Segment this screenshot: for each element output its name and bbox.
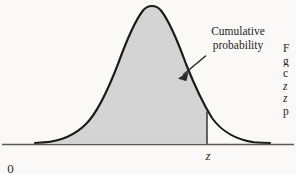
margin-caption-line-5: z bbox=[283, 92, 296, 105]
margin-caption-line-3: c bbox=[283, 67, 296, 80]
axis-tick-label-zero: 0 bbox=[0, 149, 152, 174]
margin-caption-line-1: F bbox=[283, 42, 296, 55]
margin-caption-text: F g c z z p bbox=[283, 42, 296, 118]
axis-tick-label-z: z bbox=[201, 149, 215, 162]
cumulative-probability-shaded-area bbox=[35, 6, 207, 143]
normal-curve-figure: Cumulative probability 0 z F g c z z p bbox=[0, 0, 296, 174]
cumulative-probability-label-line-2: probability bbox=[202, 39, 274, 53]
cumulative-probability-label-line-1: Cumulative bbox=[202, 25, 274, 39]
margin-caption-line-4: z bbox=[283, 80, 296, 93]
margin-caption-line-2: g bbox=[283, 55, 296, 68]
cumulative-probability-label: Cumulative probability bbox=[202, 25, 274, 52]
margin-caption-line-6: p bbox=[283, 105, 296, 118]
axis-tick-label-zero-text: 0 bbox=[7, 162, 14, 174]
